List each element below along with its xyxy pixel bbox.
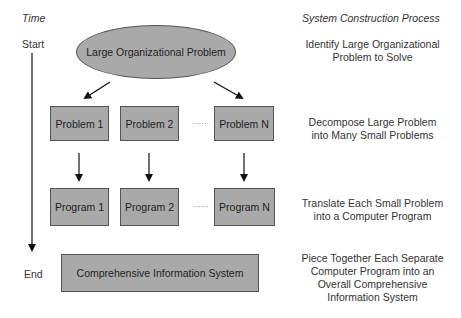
problem-box-1: Problem 1 [50, 106, 109, 141]
step-identify: Identify Large Organizational Problem to… [290, 38, 455, 64]
program-box-1: Program 1 [50, 188, 109, 226]
program-ellipsis: ...... [193, 200, 209, 209]
system-label: Comprehensive Information System [77, 267, 244, 279]
program-box-2: Program 2 [120, 188, 179, 226]
program-label: Program 1 [55, 201, 104, 213]
large-problem-label: Large Organizational Problem [86, 46, 226, 58]
program-box-n: Program N [214, 188, 275, 226]
problem-label: Problem 2 [126, 118, 174, 130]
step-piece-together: Piece Together Each Separate Computer Pr… [290, 252, 455, 304]
problem-label: Problem 1 [56, 118, 104, 130]
step-decompose: Decompose Large Problem into Many Small … [290, 116, 455, 142]
program-label: Program N [219, 201, 270, 213]
problem-box-2: Problem 2 [120, 106, 179, 141]
step-translate: Translate Each Small Problem into a Comp… [290, 197, 455, 223]
problem-box-n: Problem N [214, 106, 274, 141]
program-label: Program 2 [125, 201, 174, 213]
comprehensive-system-box: Comprehensive Information System [61, 254, 259, 292]
problem-label: Problem N [219, 118, 269, 130]
problem-ellipsis: ...... [193, 117, 209, 126]
large-problem-ellipse: Large Organizational Problem [76, 25, 236, 79]
